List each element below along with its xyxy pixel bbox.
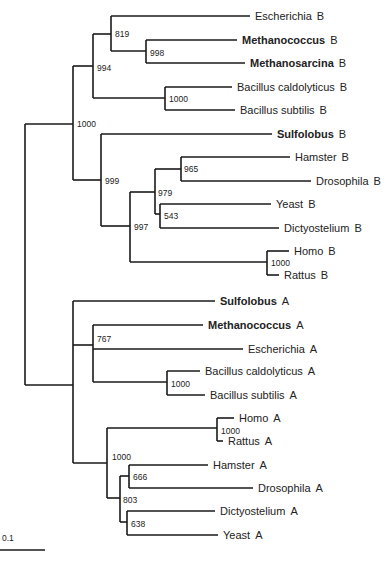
leaf-sulfolobus_a: SulfolobusA	[220, 295, 290, 307]
leaf-taxon: Escherichia	[255, 10, 313, 22]
leaf-taxon: Bacillus subtilis	[240, 104, 315, 116]
leaf-labels: EscherichiaBMethanococcusBMethanosarcina…	[205, 10, 381, 541]
bootstrap-euk_a: 1000	[112, 452, 131, 462]
leaf-paralog-suffix: B	[374, 175, 381, 187]
leaf-taxon: Methanococcus	[242, 34, 325, 46]
leaf-escherichia_a: EscherichiaA	[248, 343, 318, 355]
leaf-yeast_b: YeastB	[276, 198, 315, 210]
leaf-paralog-suffix: B	[317, 10, 324, 22]
leaf-paralog-suffix: B	[339, 128, 346, 140]
leaf-paralog-suffix: A	[265, 435, 273, 447]
leaf-taxon: Hamster	[213, 459, 255, 471]
leaf-methanosarcina_b: MethanosarcinaB	[250, 57, 346, 69]
leaf-paralog-suffix: B	[308, 198, 315, 210]
leaf-taxon: Escherichia	[248, 343, 306, 355]
leaf-taxon: Sulfolobus	[220, 295, 277, 307]
leaf-paralog-suffix: A	[290, 389, 298, 401]
leaf-hamster_a: HamsterA	[213, 459, 268, 471]
leaf-paralog-suffix: A	[296, 319, 304, 331]
leaf-taxon: Bacillus caldolyticus	[205, 365, 303, 377]
leaf-paralog-suffix: B	[339, 57, 346, 69]
leaf-hamster_b: HamsterB	[295, 151, 349, 163]
leaf-homo_b: HomoB	[294, 245, 336, 257]
bootstrap-clade_b: 1000	[77, 119, 96, 129]
bootstrap-ham_dros_b: 965	[184, 164, 198, 174]
leaf-taxon: Drosophila	[258, 482, 311, 494]
leaf-rattus_a: RattusA	[228, 435, 273, 447]
leaf-escherichia_b: EscherichiaB	[255, 10, 324, 22]
leaf-taxon: Homo	[239, 412, 268, 424]
leaf-bacillus_caldolyticus_b: Bacillus caldolyticusB	[237, 81, 347, 93]
leaf-paralog-suffix: A	[260, 459, 268, 471]
leaf-homo_a: HomoA	[239, 412, 281, 424]
bootstrap-euk_b: 997	[134, 222, 148, 232]
phylogenetic-tree: 1000994819998100099999797996554310007671…	[0, 0, 391, 561]
bootstrap-bact_arch_b: 994	[97, 63, 111, 73]
leaf-taxon: Methanococcus	[208, 319, 291, 331]
bootstrap-bact_arch_a: 767	[97, 334, 111, 344]
leaf-paralog-suffix: A	[282, 295, 290, 307]
leaf-dictyostelium_a: DictyosteliumA	[220, 505, 298, 517]
leaf-paralog-suffix: B	[330, 34, 337, 46]
leaf-taxon: Yeast	[276, 198, 303, 210]
leaf-paralog-suffix: B	[328, 245, 335, 257]
leaf-taxon: Drosophila	[316, 175, 369, 187]
leaf-paralog-suffix: B	[342, 151, 349, 163]
scale-bar: 0.1	[0, 533, 45, 550]
bootstrap-bacillus_b: 1000	[169, 94, 188, 104]
tree-node-connectors	[25, 16, 267, 535]
scale-bar-label: 0.1	[2, 533, 14, 543]
bootstrap-euk_sub_a: 803	[123, 495, 137, 505]
leaf-paralog-suffix: B	[354, 222, 361, 234]
bootstrap-esch_meth_b: 819	[115, 29, 129, 39]
leaf-taxon: Dictyostelium	[220, 505, 285, 517]
leaf-methanococcus_a: MethanococcusA	[208, 319, 304, 331]
leaf-bacillus_subtilis_a: Bacillus subtilisA	[210, 389, 298, 401]
leaf-dictyostelium_b: DictyosteliumB	[284, 222, 362, 234]
leaf-taxon: Sulfolobus	[277, 128, 334, 140]
bootstrap-bacillus_a: 1000	[171, 379, 190, 389]
bootstrap-euk_sulf_b: 999	[105, 176, 119, 186]
bootstrap-homo_rat_b: 1000	[271, 258, 290, 268]
leaf-bacillus_subtilis_b: Bacillus subtilisB	[240, 104, 327, 116]
leaf-paralog-suffix: B	[340, 81, 347, 93]
leaf-yeast_a: YeastA	[223, 529, 263, 541]
leaf-paralog-suffix: A	[273, 412, 281, 424]
leaf-taxon: Rattus	[284, 269, 316, 281]
leaf-rattus_b: RattusB	[284, 269, 328, 281]
leaf-drosophila_b: DrosophilaB	[316, 175, 381, 187]
leaf-taxon: Rattus	[228, 435, 260, 447]
bootstrap-meth_b: 998	[150, 48, 164, 58]
leaf-sulfolobus_b: SulfolobusB	[277, 128, 346, 140]
leaf-taxon: Methanosarcina	[250, 57, 335, 69]
leaf-paralog-suffix: A	[316, 482, 324, 494]
leaf-paralog-suffix: A	[308, 365, 316, 377]
tree-branches	[25, 16, 311, 535]
leaf-taxon: Homo	[294, 245, 323, 257]
leaf-taxon: Dictyostelium	[284, 222, 349, 234]
leaf-methanococcus_b: MethanococcusB	[242, 34, 337, 46]
leaf-taxon: Bacillus subtilis	[210, 389, 285, 401]
leaf-paralog-suffix: B	[320, 104, 327, 116]
leaf-paralog-suffix: A	[255, 529, 263, 541]
leaf-paralog-suffix: A	[310, 343, 318, 355]
leaf-taxon: Bacillus caldolyticus	[237, 81, 335, 93]
bootstrap-dict_yeast_a: 638	[131, 519, 145, 529]
leaf-drosophila_a: DrosophilaA	[258, 482, 324, 494]
leaf-taxon: Hamster	[295, 151, 337, 163]
leaf-paralog-suffix: B	[321, 269, 328, 281]
bootstrap-ham_dros_a: 666	[133, 472, 147, 482]
bootstrap-euk_sub_b: 979	[158, 188, 172, 198]
leaf-bacillus_caldolyticus_a: Bacillus caldolyticusA	[205, 365, 316, 377]
bootstrap-yeast_dict_b: 543	[164, 211, 178, 221]
leaf-taxon: Yeast	[223, 529, 250, 541]
leaf-paralog-suffix: A	[290, 505, 298, 517]
